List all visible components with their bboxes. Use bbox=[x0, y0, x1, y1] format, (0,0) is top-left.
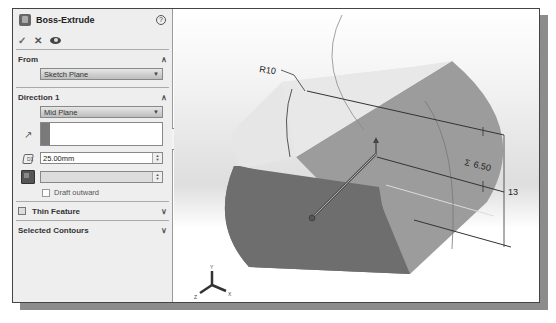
section-from: From ∧ Sketch Plane ▼ bbox=[16, 49, 169, 80]
direction-row: ↗ bbox=[20, 122, 163, 146]
chevron-down-icon[interactable]: ∨ bbox=[161, 207, 167, 216]
preview-eye-icon[interactable] bbox=[50, 37, 61, 44]
direction-arrow-icon: ↗ bbox=[20, 127, 36, 141]
depth-icon bbox=[20, 151, 36, 165]
view-triad: Y Z X bbox=[194, 264, 232, 300]
solidworks-window: Boss-Extrude ? ✓ ✕ From ∧ Sketch Plane ▼… bbox=[12, 8, 540, 303]
dropdown-arrow-icon: ▼ bbox=[153, 71, 159, 77]
end-condition-value: Mid Plane bbox=[44, 108, 153, 117]
section-direction1: Direction 1 ∧ Mid Plane ▼ ↗ 25.00mm ▲▼ bbox=[16, 87, 169, 197]
section-thin-feature: Thin Feature ∨ bbox=[16, 201, 169, 220]
chevron-up-icon[interactable]: ∧ bbox=[161, 93, 167, 102]
pm-actions: ✓ ✕ bbox=[13, 31, 172, 49]
selected-contours-header[interactable]: Selected Contours ∨ bbox=[16, 221, 169, 239]
draft-angle-input[interactable]: ▲▼ bbox=[40, 171, 163, 183]
svg-text:Y: Y bbox=[210, 264, 214, 270]
from-label: From bbox=[18, 55, 161, 64]
draft-angle-spinner[interactable]: ▲▼ bbox=[152, 172, 162, 182]
depth-value: 25.00mm bbox=[43, 154, 152, 163]
face-row: ▲▼ bbox=[20, 170, 163, 184]
help-icon[interactable]: ? bbox=[156, 15, 166, 25]
thin-feature-label: Thin Feature bbox=[32, 207, 161, 216]
direction1-label: Direction 1 bbox=[18, 93, 161, 102]
draft-outward-label: Draft outward bbox=[54, 188, 99, 197]
section-selected-contours: Selected Contours ∨ bbox=[16, 220, 169, 239]
face-icon[interactable] bbox=[20, 170, 36, 184]
selection-color-swatch bbox=[41, 123, 50, 145]
height-dimension: 13 bbox=[508, 187, 518, 197]
from-select[interactable]: Sketch Plane ▼ bbox=[40, 68, 163, 80]
pm-header: Boss-Extrude ? bbox=[13, 9, 172, 31]
svg-text:Z: Z bbox=[194, 294, 197, 300]
chevron-down-icon[interactable]: ∨ bbox=[161, 226, 167, 235]
graphics-area[interactable]: R10 Σ 6.50 13 Y Z X bbox=[174, 9, 540, 302]
from-header[interactable]: From ∧ bbox=[16, 50, 169, 68]
pm-title: Boss-Extrude bbox=[36, 15, 156, 25]
selected-contours-label: Selected Contours bbox=[18, 226, 161, 235]
cancel-button[interactable]: ✕ bbox=[34, 35, 42, 46]
from-select-value: Sketch Plane bbox=[44, 70, 153, 79]
radius-dimension: R10 bbox=[259, 64, 277, 76]
thin-feature-checkbox[interactable] bbox=[18, 207, 26, 215]
direction-selection-box[interactable] bbox=[40, 122, 163, 146]
direction1-header[interactable]: Direction 1 ∧ bbox=[16, 88, 169, 106]
dropdown-arrow-icon: ▼ bbox=[153, 109, 159, 115]
depth-spinner[interactable]: ▲▼ bbox=[152, 153, 162, 163]
boss-extrude-icon bbox=[19, 14, 31, 26]
property-manager: Boss-Extrude ? ✓ ✕ From ∧ Sketch Plane ▼… bbox=[13, 9, 173, 302]
chevron-up-icon[interactable]: ∧ bbox=[161, 55, 167, 64]
depth-input[interactable]: 25.00mm ▲▼ bbox=[40, 152, 163, 164]
thin-feature-header[interactable]: Thin Feature ∨ bbox=[16, 202, 169, 220]
end-condition-select[interactable]: Mid Plane ▼ bbox=[40, 106, 163, 118]
model-view: R10 Σ 6.50 13 Y Z X bbox=[174, 9, 540, 302]
ok-button[interactable]: ✓ bbox=[18, 35, 26, 46]
draft-outward-checkbox[interactable] bbox=[42, 189, 50, 197]
svg-text:X: X bbox=[228, 291, 232, 297]
depth-row: 25.00mm ▲▼ bbox=[20, 151, 163, 165]
draft-outward-row: Draft outward bbox=[42, 188, 169, 197]
